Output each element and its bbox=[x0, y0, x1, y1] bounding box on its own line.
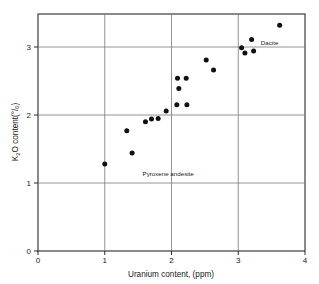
data-point bbox=[239, 45, 244, 50]
data-point bbox=[277, 23, 282, 28]
data-point bbox=[184, 102, 189, 107]
y-axis-title-rest: O content bbox=[11, 116, 20, 152]
data-point bbox=[130, 151, 135, 156]
scatter-plot-figure: 01234 0123 DacitePyroxene andesite Urani… bbox=[0, 0, 319, 284]
data-point bbox=[149, 117, 154, 122]
svg-text:K2O content(°/ₒ): K2O content(°/ₒ) bbox=[11, 103, 21, 162]
data-point bbox=[211, 68, 216, 73]
data-point bbox=[174, 102, 179, 107]
data-point bbox=[124, 128, 129, 133]
y-axis-title-units: (°/ₒ) bbox=[11, 103, 20, 117]
data-point bbox=[164, 108, 169, 113]
y-tick-label: 3 bbox=[27, 43, 32, 52]
data-point bbox=[251, 49, 256, 54]
data-point bbox=[176, 86, 181, 91]
data-point bbox=[204, 57, 209, 62]
data-point bbox=[249, 37, 254, 42]
plot-annotation-dacite: Dacite bbox=[261, 39, 279, 46]
x-axis-title: Uranium content, (ppm) bbox=[128, 270, 214, 279]
data-point bbox=[242, 51, 247, 56]
x-tick-label: 2 bbox=[169, 256, 174, 265]
data-point bbox=[143, 119, 148, 124]
plot-annotation-pyroxene-andesite: Pyroxene andesite bbox=[143, 170, 195, 177]
data-point bbox=[175, 76, 180, 81]
x-tick-label: 1 bbox=[103, 256, 108, 265]
x-tick-label: 3 bbox=[236, 256, 241, 265]
y-axis-title: K2O content(°/ₒ) bbox=[11, 103, 21, 162]
data-point bbox=[156, 116, 161, 121]
data-point bbox=[184, 76, 189, 81]
x-tick-label: 4 bbox=[303, 256, 308, 265]
data-point bbox=[102, 161, 107, 166]
x-tick-label: 0 bbox=[36, 256, 41, 265]
y-tick-label: 2 bbox=[27, 111, 32, 120]
y-tick-label: 0 bbox=[27, 247, 32, 256]
y-tick-label: 1 bbox=[27, 179, 32, 188]
